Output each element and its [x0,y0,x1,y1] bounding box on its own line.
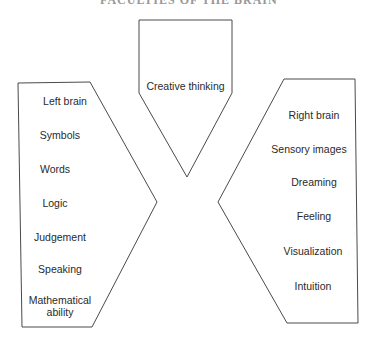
left-item-words: Words [15,163,95,175]
left-item-logic: Logic [15,197,95,209]
top-shape-label: Creative thinking [139,80,232,92]
left-item-left-brain: Left brain [25,95,105,107]
right-item-feeling: Feeling [269,210,359,222]
right-item-sensory-images: Sensory images [264,143,354,155]
top-shape-creative [139,20,232,177]
left-item-symbols: Symbols [20,129,100,141]
left-item-mathematical-ability: Mathematical ability [25,294,95,318]
left-item-speaking: Speaking [20,263,100,275]
right-item-dreaming: Dreaming [269,176,359,188]
right-item-intuition: Intuition [268,280,358,292]
left-item-judgement: Judgement [20,231,100,243]
right-item-visualization: Visualization [268,245,358,257]
right-item-right-brain: Right brain [269,109,359,121]
